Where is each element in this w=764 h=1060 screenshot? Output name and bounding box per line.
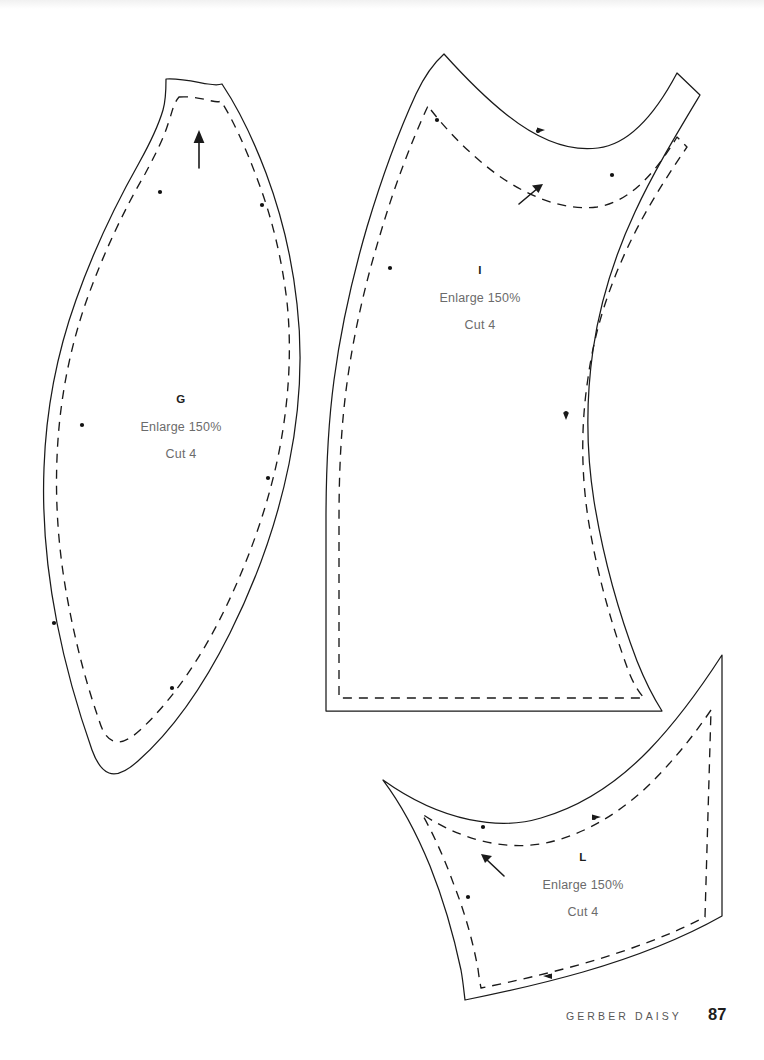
notch-dot xyxy=(52,621,56,625)
piece-enlarge-instruction-g: Enlarge 150% xyxy=(0,421,362,434)
grainline-arrow-g xyxy=(194,130,205,168)
piece-label-l: L Enlarge 150% Cut 4 xyxy=(403,852,763,919)
grainline-arrow-i xyxy=(519,184,543,204)
piece-cut-instruction-g: Cut 4 xyxy=(0,448,362,461)
footer-book-title: GERBER DAISY xyxy=(566,1010,682,1022)
seam-direction-tick xyxy=(537,128,545,134)
piece-enlarge-instruction-i: Enlarge 150% xyxy=(300,292,660,305)
piece-letter-l: L xyxy=(403,852,763,864)
piece-label-g: G Enlarge 150% Cut 4 xyxy=(0,394,362,461)
cut-line-l xyxy=(383,655,722,1000)
pattern-piece-l xyxy=(383,655,722,1000)
seam-direction-tick xyxy=(592,815,601,821)
piece-letter-g: G xyxy=(0,394,362,406)
page-footer: GERBER DAISY 87 xyxy=(566,1005,726,1024)
notch-dot xyxy=(266,476,270,480)
seam-direction-tick xyxy=(563,413,569,421)
piece-cut-instruction-l: Cut 4 xyxy=(403,906,763,919)
seam-line-l xyxy=(422,710,711,988)
notch-dot xyxy=(481,825,485,829)
notch-dot xyxy=(435,118,439,122)
cut-line-i xyxy=(326,54,700,711)
notch-dot xyxy=(170,686,174,690)
notch-dot xyxy=(260,203,264,207)
notch-dot xyxy=(158,190,162,194)
notch-dot xyxy=(610,173,614,177)
piece-letter-i: I xyxy=(300,265,660,277)
piece-label-i: I Enlarge 150% Cut 4 xyxy=(300,265,660,332)
seam-line-i xyxy=(339,106,687,698)
piece-enlarge-instruction-l: Enlarge 150% xyxy=(403,879,763,892)
pattern-page: G Enlarge 150% Cut 4 I Enlarge 150% Cut … xyxy=(0,0,764,1060)
piece-cut-instruction-i: Cut 4 xyxy=(300,319,660,332)
pattern-piece-i xyxy=(326,54,700,711)
footer-page-number: 87 xyxy=(708,1005,726,1024)
